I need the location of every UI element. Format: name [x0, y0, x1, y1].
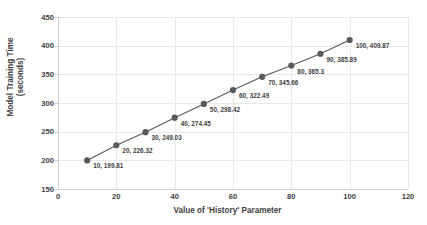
data-point-label: 10, 199.81	[93, 162, 123, 169]
data-point-marker[interactable]	[230, 87, 236, 93]
x-axis-tick-label: 60	[218, 192, 248, 201]
x-axis-tick-label: 100	[335, 192, 365, 201]
data-point-label: 100, 409.87	[356, 42, 390, 49]
data-point-label: 50, 298.42	[210, 106, 240, 113]
x-axis-tick-label: 20	[101, 192, 131, 201]
y-axis-tick-label: 200	[26, 156, 54, 165]
x-axis-title: Value of 'History' Parameter	[55, 206, 400, 215]
y-axis-tick-label: 250	[26, 127, 54, 136]
y-axis-tick-label: 350	[26, 70, 54, 79]
data-point-marker[interactable]	[347, 37, 353, 43]
data-point-label: 90, 385.89	[327, 56, 357, 63]
data-point-label: 20, 226.32	[122, 147, 152, 154]
data-point-marker[interactable]	[142, 129, 148, 135]
x-axis-tick-label: 120	[393, 192, 423, 201]
x-axis-tick-label: 40	[160, 192, 190, 201]
y-axis-title-line2: (seconds)	[16, 38, 27, 117]
series-line	[87, 40, 350, 160]
x-axis-tick-label: 80	[276, 192, 306, 201]
data-point-marker[interactable]	[113, 142, 119, 148]
y-axis-title-line1: Model Training Time	[6, 38, 17, 117]
y-axis-tick-label: 400	[26, 41, 54, 50]
data-point-marker[interactable]	[317, 51, 323, 57]
data-point-label: 30, 249.03	[152, 134, 182, 141]
data-point-marker[interactable]	[259, 74, 265, 80]
data-point-label: 60, 322.49	[239, 92, 269, 99]
chart-container: Model Training Time (seconds) 1502002503…	[0, 0, 427, 225]
data-point-marker[interactable]	[288, 62, 294, 68]
data-point-marker[interactable]	[84, 157, 90, 163]
data-point-label: 80, 365.3	[297, 68, 324, 75]
y-axis-tick-label: 450	[26, 13, 54, 22]
x-axis-tick-label: 0	[43, 192, 73, 201]
gridline-vertical	[408, 17, 409, 189]
data-point-marker[interactable]	[172, 115, 178, 121]
y-axis-tick-label: 300	[26, 99, 54, 108]
data-point-label: 70, 345.66	[268, 79, 298, 86]
x-axis-line	[58, 189, 408, 190]
data-point-marker[interactable]	[201, 101, 207, 107]
data-point-label: 40, 274.45	[181, 120, 211, 127]
